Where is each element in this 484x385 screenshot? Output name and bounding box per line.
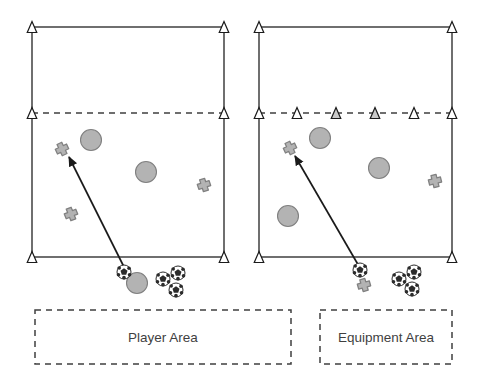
marker-circle-icon xyxy=(278,206,299,227)
ball-patch-4 xyxy=(364,271,368,275)
marker-circle-icon xyxy=(310,128,331,149)
equipment-cross-icon xyxy=(356,277,371,292)
ball-patch-3 xyxy=(353,271,357,275)
ball-patch-3 xyxy=(169,291,173,295)
ball-patch-1 xyxy=(166,273,170,277)
soccer-drill-diagram: Player AreaEquipment Area xyxy=(0,0,484,385)
ball-patch-2 xyxy=(122,276,126,280)
ball-patch-1 xyxy=(181,267,185,271)
player-area-panel xyxy=(27,22,229,298)
ball-patch-0 xyxy=(169,284,173,288)
cross-glyph xyxy=(356,277,371,292)
ball-patch-4 xyxy=(182,274,186,278)
ball-patch-0 xyxy=(392,273,396,277)
ball-patch-4 xyxy=(167,280,171,284)
ball-patch-1 xyxy=(363,264,367,268)
player-cross-icon xyxy=(196,177,212,193)
ball-patch-4 xyxy=(416,290,420,294)
ball-patch-3 xyxy=(171,274,175,278)
ball-patch-3 xyxy=(117,273,121,277)
ball-patch-3 xyxy=(392,280,396,284)
ball-patch-0 xyxy=(407,266,411,270)
soccer-ball-icon xyxy=(156,272,171,286)
marker-circle-icon xyxy=(136,162,157,183)
ball-patch-1 xyxy=(402,273,406,277)
ball-patch-2 xyxy=(358,274,362,278)
ball-patch-3 xyxy=(407,273,411,277)
player-cross-icon xyxy=(282,140,298,156)
ball-patch-1 xyxy=(415,283,419,287)
ball-patch-1 xyxy=(179,284,183,288)
ball-patch-1 xyxy=(127,266,131,270)
soccer-ball-icon xyxy=(407,265,422,279)
ball-patch-4 xyxy=(403,280,407,284)
ball-patch-0 xyxy=(171,267,175,271)
soccer-ball-icon xyxy=(405,282,420,296)
ball-patch-3 xyxy=(405,290,409,294)
cross-glyph xyxy=(54,141,70,157)
player-cross-icon xyxy=(63,206,79,222)
ball-patch-2 xyxy=(161,283,165,287)
ball-patch-2 xyxy=(174,294,178,298)
labels-root: Player AreaEquipment Area xyxy=(35,310,452,364)
player-cross-icon xyxy=(54,141,70,157)
soccer-ball-icon xyxy=(392,272,407,286)
cross-glyph xyxy=(196,177,212,193)
ball-patch-0 xyxy=(353,264,357,268)
soccer-ball-icon xyxy=(169,283,184,297)
equipment-area-panel xyxy=(254,22,457,297)
ball-patch-2 xyxy=(410,293,414,297)
ball-patch-2 xyxy=(176,277,180,281)
cross-glyph xyxy=(282,140,298,156)
ball-patch-4 xyxy=(180,291,184,295)
marker-circle-icon xyxy=(369,158,390,179)
equipment-area-box[interactable]: Equipment Area xyxy=(320,310,452,364)
ball-patch-0 xyxy=(117,266,121,270)
ball-patch-4 xyxy=(418,273,422,277)
cross-glyph xyxy=(427,173,442,188)
player-area-box[interactable]: Player Area xyxy=(35,310,291,364)
ball-patch-2 xyxy=(397,283,401,287)
soccer-ball-icon xyxy=(171,266,186,280)
panels-root xyxy=(27,22,457,298)
ball-patch-0 xyxy=(405,283,409,287)
cross-glyph xyxy=(63,206,79,222)
player-cross-icon xyxy=(427,173,442,188)
movement-arrow xyxy=(295,156,360,268)
marker-circle-icon xyxy=(81,130,102,151)
equipment-area-box-label: Equipment Area xyxy=(338,330,435,345)
ball-patch-4 xyxy=(128,273,132,277)
ball-patch-1 xyxy=(417,266,421,270)
soccer-ball-icon xyxy=(117,265,132,279)
player-area-box-label: Player Area xyxy=(128,330,198,345)
ball-patch-0 xyxy=(156,273,160,277)
ball-patch-3 xyxy=(156,280,160,284)
diagram-stage: Player AreaEquipment Area xyxy=(0,0,484,385)
soccer-ball-icon xyxy=(353,263,368,277)
ball-patch-2 xyxy=(412,276,416,280)
